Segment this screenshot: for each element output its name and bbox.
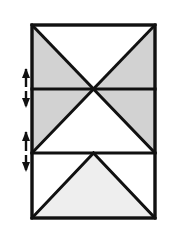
dimension-marker-upper: [22, 68, 30, 108]
marker-lower-arrowhead-down: [22, 162, 30, 172]
dimension-marker-lower: [22, 131, 30, 172]
band-top-group: [32, 25, 155, 89]
figure-root: [0, 0, 169, 244]
figure-diagram: [0, 0, 169, 244]
band-bottom-group: [32, 153, 155, 218]
band-middle-group: [32, 89, 155, 153]
marker-upper-arrowhead-down: [22, 98, 30, 108]
marker-upper-arrowhead-up: [22, 68, 30, 78]
marker-lower-arrowhead-up: [22, 131, 30, 141]
